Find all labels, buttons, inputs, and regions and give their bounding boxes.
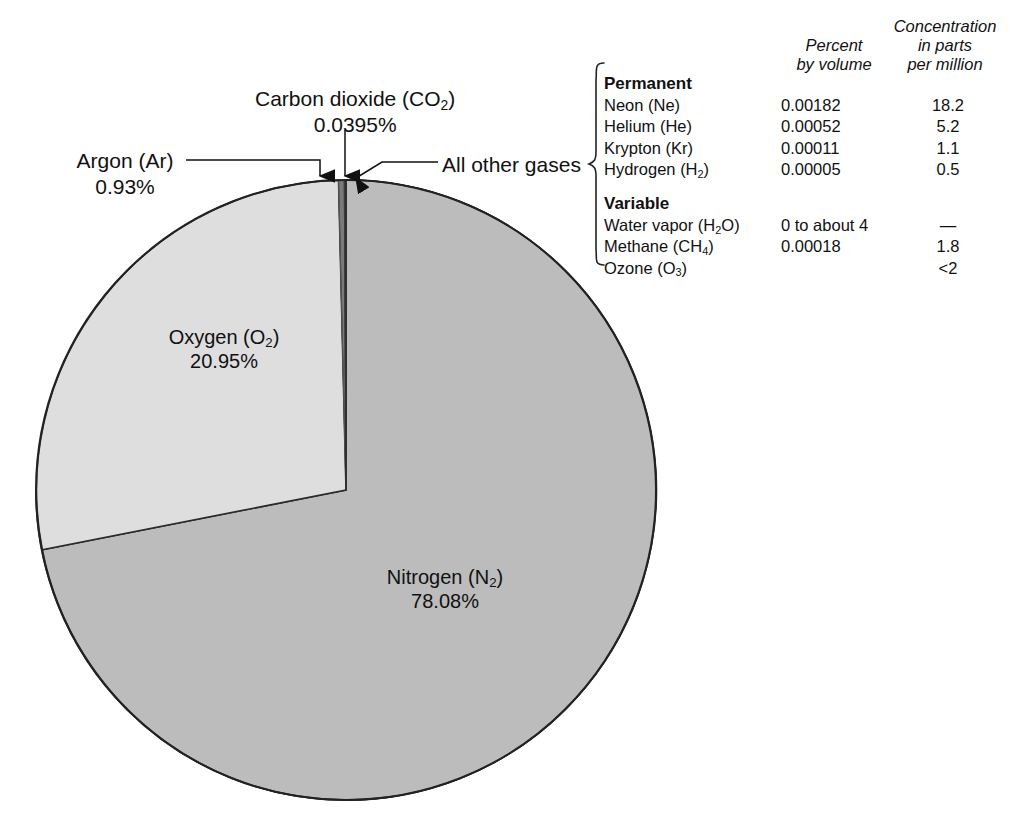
- table-row: Helium (He)0.000525.2: [604, 116, 1004, 137]
- table-row: Krypton (Kr)0.000111.1: [604, 138, 1004, 159]
- table-body: PermanentNeon (Ne)0.0018218.2Helium (He)…: [604, 74, 1004, 279]
- trace-gases-table: Percent by volume Concentration in parts…: [604, 12, 1004, 279]
- leader-line-other-gases: [356, 162, 438, 178]
- subscript: 4: [702, 245, 708, 257]
- label-carbon-dioxide: Carbon dioxide (CO2) 0.0395%: [255, 86, 455, 137]
- table-cell-ppm: 18.2: [893, 95, 1003, 116]
- label-carbon-dioxide-name: Carbon dioxide (CO2): [255, 86, 455, 112]
- subscript: 2: [698, 168, 704, 180]
- table-header-row: Percent by volume Concentration in parts…: [604, 12, 1004, 74]
- table-cell-percent: 0 to about 4: [778, 215, 893, 236]
- subscript: 2: [265, 335, 272, 350]
- table-cell-ppm: <2: [893, 258, 1003, 279]
- table-header-concentration: Concentration in parts per million: [890, 17, 1000, 74]
- table-row: Hydrogen (H2)0.000050.5: [604, 159, 1004, 180]
- table-row: Neon (Ne)0.0018218.2: [604, 95, 1004, 116]
- subscript: 3: [676, 266, 682, 278]
- subscript: 2: [441, 97, 449, 113]
- table-cell-ppm: 5.2: [893, 116, 1003, 137]
- table-header-percent: Percent by volume: [778, 36, 890, 74]
- table-cell-gas: Methane (CH4): [604, 236, 778, 257]
- table-row: Methane (CH4)0.000181.8: [604, 236, 1004, 257]
- table-brace: [589, 63, 604, 265]
- table-cell-ppm: 1.1: [893, 138, 1003, 159]
- table-cell-ppm: —: [893, 215, 1003, 236]
- table-cell-gas: Water vapor (H2O): [604, 215, 778, 236]
- label-all-other-gases: All other gases: [442, 152, 581, 178]
- table-group-heading: Variable: [604, 194, 1004, 214]
- table-cell-gas: Ozone (O3): [604, 258, 778, 279]
- table-cell-gas: Hydrogen (H2): [604, 159, 778, 180]
- label-nitrogen-value: 78.08%: [350, 589, 540, 613]
- table-cell-gas: Neon (Ne): [604, 95, 778, 116]
- figure-canvas: Carbon dioxide (CO2) 0.0395% Argon (Ar) …: [0, 0, 1010, 819]
- table-cell-percent: [778, 258, 893, 279]
- table-cell-gas: Helium (He): [604, 116, 778, 137]
- table-cell-percent: 0.00011: [778, 138, 893, 159]
- label-carbon-dioxide-value: 0.0395%: [255, 112, 455, 138]
- subscript: 2: [715, 224, 721, 236]
- label-oxygen-name: Oxygen (O2): [134, 325, 314, 349]
- table-row: Water vapor (H2O)0 to about 4—: [604, 215, 1004, 236]
- table-cell-ppm: 1.8: [893, 236, 1003, 257]
- table-cell-ppm: 0.5: [893, 159, 1003, 180]
- table-cell-percent: 0.00182: [778, 95, 893, 116]
- table-cell-gas: Krypton (Kr): [604, 138, 778, 159]
- label-oxygen-value: 20.95%: [134, 349, 314, 373]
- subscript: 2: [489, 575, 496, 590]
- label-nitrogen-name: Nitrogen (N2): [350, 565, 540, 589]
- table-cell-percent: 0.00005: [778, 159, 893, 180]
- label-argon: Argon (Ar) 0.93%: [30, 148, 220, 199]
- table-row: Ozone (O3)<2: [604, 258, 1004, 279]
- table-cell-percent: 0.00018: [778, 236, 893, 257]
- label-nitrogen: Nitrogen (N2) 78.08%: [350, 565, 540, 614]
- label-argon-name: Argon (Ar): [30, 148, 220, 174]
- table-group-heading: Permanent: [604, 74, 1004, 94]
- label-oxygen: Oxygen (O2) 20.95%: [134, 325, 314, 374]
- table-cell-percent: 0.00052: [778, 116, 893, 137]
- label-argon-value: 0.93%: [30, 174, 220, 200]
